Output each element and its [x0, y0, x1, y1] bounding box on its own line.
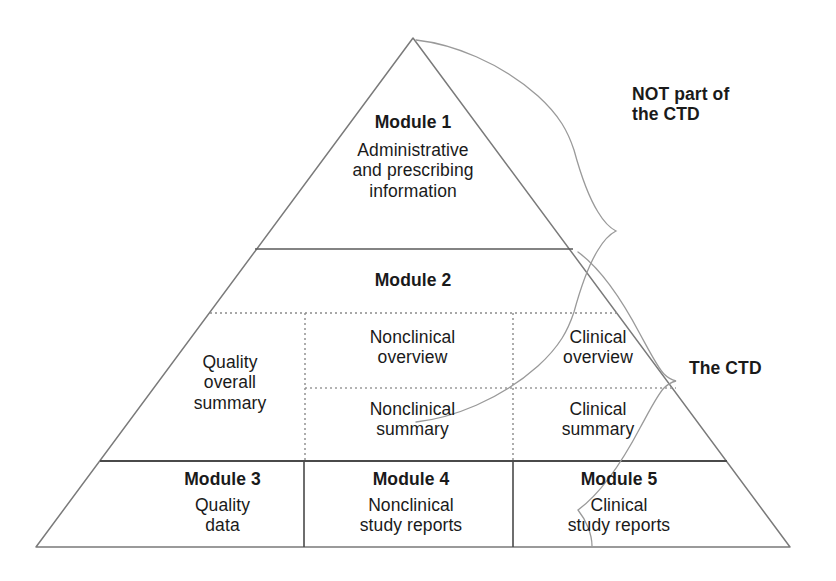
module2-nonclinical-summary: Nonclinical summary	[320, 399, 505, 440]
module1-body: Administrative and prescribing informati…	[303, 140, 523, 201]
annotation-not-part-of-ctd: NOT part of the CTD	[632, 84, 822, 125]
module5-heading: Module 5	[520, 469, 718, 489]
module2-clinical-summary: Clinical summary	[518, 399, 678, 440]
annotation-the-ctd: The CTD	[689, 358, 829, 378]
module4-heading: Module 4	[312, 469, 510, 489]
module4-body: Nonclinical study reports	[312, 495, 510, 536]
module5-body: Clinical study reports	[520, 495, 718, 536]
module3-heading: Module 3	[145, 469, 300, 489]
module2-nonclinical-overview: Nonclinical overview	[320, 327, 505, 368]
module3-body: Quality data	[145, 495, 300, 536]
module2-heading: Module 2	[313, 270, 513, 290]
module2-quality-overall-summary: Quality overall summary	[160, 352, 300, 413]
module1-heading: Module 1	[313, 112, 513, 132]
ctd-pyramid-diagram: Module 1 Administrative and prescribing …	[0, 0, 836, 581]
module2-clinical-overview: Clinical overview	[518, 327, 678, 368]
